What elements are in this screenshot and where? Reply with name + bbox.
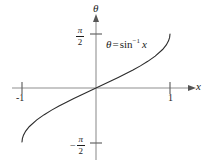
pi-over-two-denominator: 2: [77, 38, 84, 47]
theta-axis-tick-label-pi-over-two: π 2: [75, 26, 84, 47]
x-axis-label: x: [196, 81, 201, 92]
x-axis: [12, 85, 196, 91]
theta-axis-label: θ: [93, 3, 98, 14]
x-axis-tick-label-one: 1: [168, 93, 173, 103]
x-axis-arrowhead: [188, 85, 196, 91]
pi-over-two-numerator: π: [77, 26, 84, 35]
pi-over-two-fraction: π 2: [76, 26, 84, 47]
equation-variable-x: x: [140, 38, 147, 50]
inverse-sine-graph-figure: θ x -1 1 π 2 − π 2 θ=sin−1x: [0, 0, 212, 166]
negative-pi-over-two-sign: −: [70, 141, 76, 151]
theta-axis-tick-label-negative-pi-over-two: − π 2: [70, 135, 85, 156]
plot-canvas: [0, 0, 212, 166]
negative-pi-over-two-fraction: π 2: [77, 135, 85, 156]
equation-sine-function: sin: [120, 38, 133, 50]
theta-axis-arrowhead: [93, 14, 99, 22]
curve-equation-label: θ=sin−1x: [106, 38, 147, 50]
negative-pi-over-two-denominator: 2: [77, 147, 84, 156]
negative-pi-over-two-numerator: π: [77, 135, 84, 144]
x-axis-tick-label-negative-one: -1: [16, 93, 24, 103]
equation-inverse-exponent: −1: [132, 37, 139, 45]
equation-equals-sign: =: [111, 38, 119, 50]
